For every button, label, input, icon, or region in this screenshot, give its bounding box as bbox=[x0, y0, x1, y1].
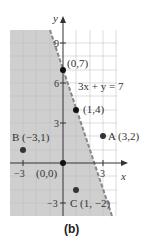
point-B bbox=[20, 147, 26, 153]
point-origin bbox=[60, 160, 66, 166]
point-C bbox=[73, 187, 79, 193]
label-origin: (0,0) bbox=[36, 167, 57, 180]
inequality-graph: y x 9 6 3 −3 −3 3 (0,7) (1,4) 3x + y = 7… bbox=[0, 0, 152, 242]
y-tick-6: 6 bbox=[54, 78, 59, 89]
point-A bbox=[100, 133, 106, 139]
y-axis-label: y bbox=[52, 12, 58, 24]
label-B: B (−3,1) bbox=[12, 131, 50, 144]
point-1-4 bbox=[73, 107, 79, 113]
label-0-7: (0,7) bbox=[67, 57, 88, 70]
figure-caption: (b) bbox=[64, 222, 79, 236]
point-0-7 bbox=[60, 67, 66, 73]
label-C: C (1, −2) bbox=[70, 197, 110, 210]
x-axis-label: x bbox=[120, 170, 126, 182]
y-axis-arrow-icon bbox=[60, 16, 66, 23]
equation-label: 3x + y = 7 bbox=[78, 80, 124, 92]
x-tick-3: 3 bbox=[100, 168, 105, 179]
label-A: A (3,2) bbox=[108, 130, 140, 143]
y-tick-neg3: −3 bbox=[47, 198, 58, 209]
label-1-4: (1,4) bbox=[83, 103, 104, 116]
x-axis-arrow-icon bbox=[121, 160, 128, 166]
x-tick-neg3: −3 bbox=[14, 168, 25, 179]
y-tick-3: 3 bbox=[54, 118, 59, 129]
y-tick-9: 9 bbox=[54, 38, 59, 49]
